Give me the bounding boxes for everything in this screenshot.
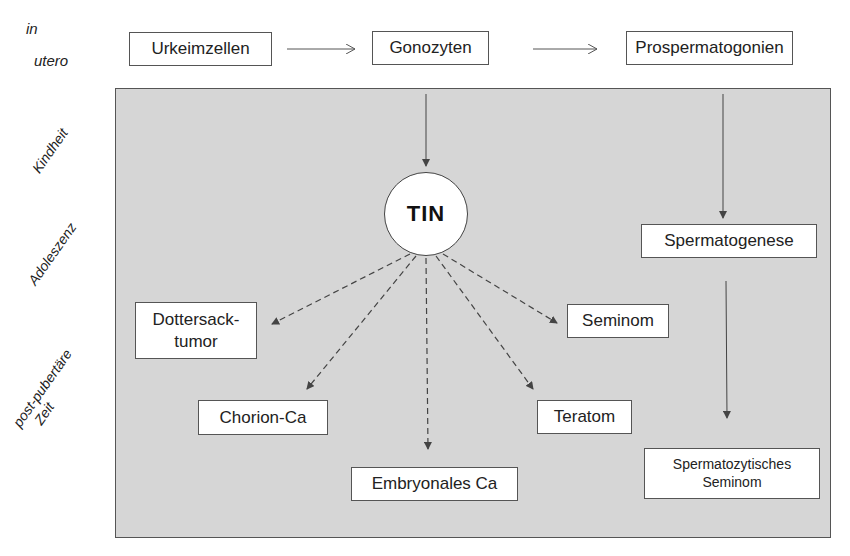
spermatozytisches-line2: Seminom [702,474,761,492]
node-prospermatogonien: Prospermatogonien [626,31,793,65]
node-gonozyten: Gonozyten [372,31,489,65]
node-chorion-ca: Chorion-Ca [198,400,328,435]
spermatozytisches-line1: Spermatozytisches [673,456,791,474]
node-seminom: Seminom [567,304,669,338]
node-tin: TIN [384,172,468,256]
node-teratom: Teratom [537,400,632,434]
node-urkeimzellen: Urkeimzellen [129,32,272,66]
node-dottersacktumor: Dottersack- tumor [135,302,257,359]
node-spermatozytisches-seminom: Spermatozytisches Seminom [644,448,820,499]
dottersack-line1: Dottersack- [153,309,240,330]
node-spermatogenese: Spermatogenese [641,224,817,258]
dottersack-line2: tumor [174,331,217,352]
node-embryonales-ca: Embryonales Ca [351,467,518,501]
